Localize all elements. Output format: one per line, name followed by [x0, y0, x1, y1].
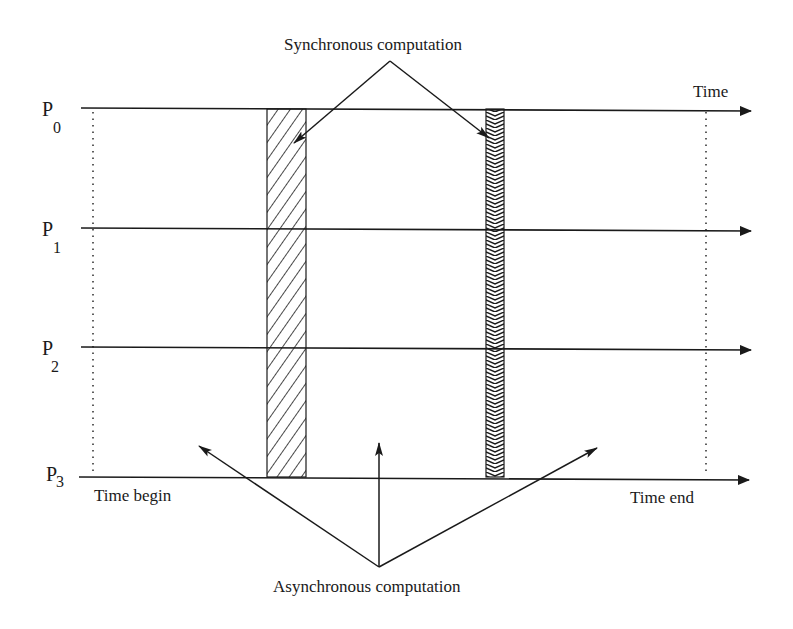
- timeline-p2: [81, 347, 751, 350]
- processor-letter: P: [42, 98, 53, 120]
- timeline-p1: [81, 228, 751, 231]
- processor-index: 2: [51, 358, 59, 375]
- async-pointer-arrows: [199, 443, 597, 567]
- processor-label-p3: P 3: [46, 463, 64, 490]
- processor-letter: P: [42, 218, 53, 240]
- timeline-diagram: P 0 P 1 P 2 P 3 Time Time begin Time end…: [0, 0, 793, 629]
- time-axis-label: Time: [693, 82, 728, 101]
- timeline-p0: [81, 108, 751, 111]
- time-end-label: Time end: [630, 488, 695, 507]
- timeline-p3: [79, 477, 749, 480]
- sync-block-2: [486, 109, 504, 477]
- async-computation-label: Asynchronous computation: [273, 577, 461, 596]
- processor-label-p1: P 1: [42, 218, 61, 256]
- time-begin-label: Time begin: [94, 486, 172, 505]
- processor-label-p2: P 2: [42, 337, 59, 375]
- sync-pointer-arrows: [294, 61, 489, 143]
- processor-index: 3: [56, 473, 64, 490]
- processor-letter: P: [42, 337, 53, 359]
- sync-computation-label: Synchronous computation: [284, 35, 463, 54]
- processor-index: 1: [53, 239, 61, 256]
- processor-index: 0: [53, 119, 61, 136]
- sync-block-1: [267, 109, 306, 477]
- processor-label-p0: P 0: [42, 98, 61, 136]
